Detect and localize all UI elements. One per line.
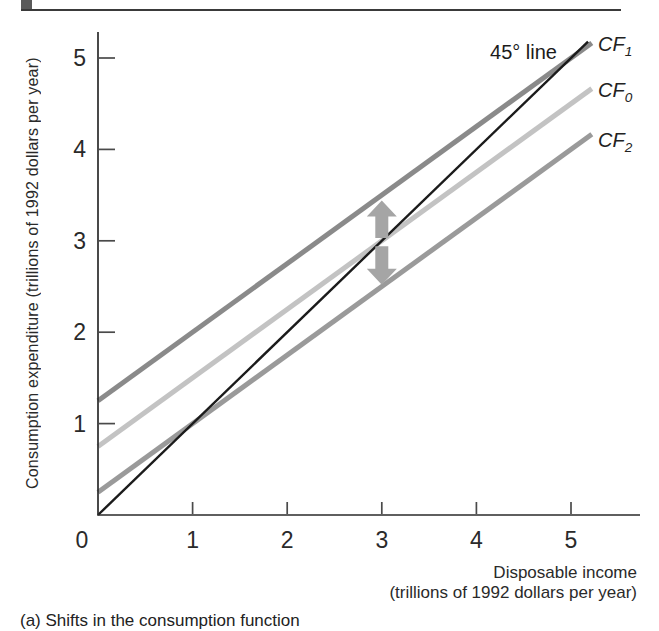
- x-axis-label-line1: Disposable income: [389, 563, 637, 583]
- label-cf2-sub: 2: [625, 140, 633, 155]
- origin-label: 0: [76, 527, 89, 553]
- label-cf0: CF0: [598, 79, 632, 105]
- CF0-line: [98, 89, 592, 447]
- label-cf1-sub: 1: [625, 44, 633, 59]
- x-tick-label: 3: [375, 527, 388, 553]
- x-tick-label: 4: [470, 527, 483, 553]
- label-cf1: CF1: [598, 33, 632, 59]
- label-45-degree-line: 45° line: [455, 41, 557, 64]
- x-tick-label: 5: [565, 527, 578, 553]
- x-tick-label: 2: [281, 527, 294, 553]
- label-cf2: CF2: [598, 129, 632, 155]
- y-axis-label: Consumption expenditure (trillions of 19…: [20, 28, 46, 518]
- label-cf0-main: CF: [598, 79, 625, 101]
- label-cf2-main: CF: [598, 129, 625, 151]
- y-tick-label: 2: [73, 319, 86, 345]
- label-cf0-sub: 0: [625, 90, 633, 105]
- CF2-line: [98, 134, 592, 492]
- x-axis-label-line2: (trillions of 1992 dollars per year): [389, 583, 637, 603]
- 45-degree-line-line: [98, 42, 588, 515]
- panel-caption: (a) Shifts in the consumption function: [20, 611, 300, 631]
- CF1-line: [98, 43, 592, 401]
- label-cf1-main: CF: [598, 33, 625, 55]
- y-tick-label: 5: [73, 45, 86, 71]
- x-tick-label: 1: [186, 527, 199, 553]
- axes: [98, 32, 640, 515]
- x-axis-label: Disposable income (trillions of 1992 dol…: [389, 563, 637, 603]
- y-tick-label: 3: [73, 228, 86, 254]
- y-tick-label: 1: [73, 411, 86, 437]
- y-tick-label: 4: [73, 136, 86, 162]
